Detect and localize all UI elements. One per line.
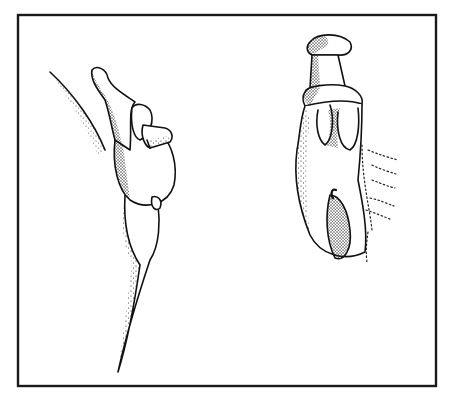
illustration [0, 0, 450, 400]
picture-frame [18, 15, 436, 386]
